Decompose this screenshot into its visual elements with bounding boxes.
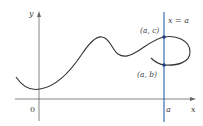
x-tick-label-a: a bbox=[166, 105, 171, 114]
y-axis-arrow-icon bbox=[37, 11, 41, 17]
point-a-c bbox=[162, 35, 166, 39]
origin-label: 0 bbox=[30, 105, 35, 114]
y-axis-label: y bbox=[28, 9, 34, 18]
x-axis-arrow-icon bbox=[190, 97, 196, 101]
point-a-b bbox=[162, 63, 166, 67]
diagram-canvas: y x 0 a x = a (a, c) (a, b) bbox=[0, 0, 203, 126]
point-a-c-label: (a, c) bbox=[140, 26, 159, 35]
vertical-line-label: x = a bbox=[168, 16, 189, 25]
point-a-b-label: (a, b) bbox=[137, 70, 157, 79]
diagram: y x 0 a x = a (a, c) (a, b) bbox=[0, 0, 203, 126]
x-axis-label: x bbox=[191, 105, 196, 114]
